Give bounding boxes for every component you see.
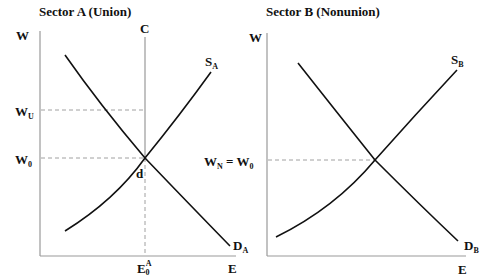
demand-label-a: DA — [233, 238, 248, 255]
panel-a-x-label: E — [228, 261, 237, 276]
panel-a-y-label: W — [16, 28, 29, 43]
panel-b-y-label: W — [249, 30, 262, 45]
employment-label-a: EA0 — [137, 259, 152, 277]
point-d-label: d — [136, 166, 144, 181]
supply-label-b: SB — [451, 52, 464, 69]
demand-label-b: DB — [464, 238, 479, 255]
demand-curve-b — [298, 63, 458, 241]
supply-label-a: SA — [205, 54, 218, 71]
panel-b-title: Sector B (Nonunion) — [266, 4, 380, 19]
demand-curve-a — [65, 55, 230, 246]
w0-label: W0 — [15, 152, 32, 169]
wn-equals-w0-label: WN = W0 — [204, 154, 253, 171]
supply-curve-a — [65, 72, 211, 231]
supply-curve-b — [276, 70, 457, 237]
union-nonunion-diagram: Sector A (Union) W E C WU W0 SA DA d — [0, 0, 489, 280]
constraint-label-c: C — [140, 21, 149, 36]
panel-sector-b: Sector B (Nonunion) W E WN = W0 SB DB — [204, 4, 479, 277]
panel-b-x-label: E — [458, 262, 467, 277]
panel-a-title: Sector A (Union) — [39, 4, 131, 19]
wu-label: WU — [15, 104, 34, 121]
panel-sector-a: Sector A (Union) W E C WU W0 SA DA d — [15, 4, 248, 277]
